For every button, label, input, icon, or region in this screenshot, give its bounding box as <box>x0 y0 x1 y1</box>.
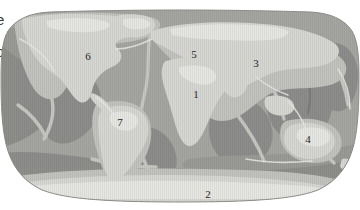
map-label-asia: 3 <box>249 58 263 69</box>
map-label-africa: 1 <box>189 89 203 100</box>
map-label-south-america: 7 <box>113 117 127 128</box>
map-label-antarctica: 2 <box>201 189 215 200</box>
halftone-texture <box>0 9 360 203</box>
map-label-europe: 5 <box>187 49 201 60</box>
ocean-layer <box>0 9 360 203</box>
map-label-north-america: 6 <box>81 51 95 62</box>
map-label-australia: 4 <box>301 134 315 145</box>
world-map-figure: 1 2 3 4 5 6 7 <box>0 9 360 203</box>
world-map-graphic <box>0 9 360 203</box>
